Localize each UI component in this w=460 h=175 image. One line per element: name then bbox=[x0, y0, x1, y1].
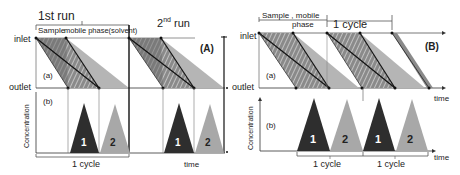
concentration-label: Concentration bbox=[23, 104, 30, 148]
mobile-phase-label: mobile phase(solvent) bbox=[64, 26, 138, 35]
svg-text:2: 2 bbox=[205, 137, 211, 148]
sample-label: Sample bbox=[38, 26, 66, 35]
outlet-label-b: outlet bbox=[232, 82, 255, 92]
sub-b-label: (b) bbox=[43, 97, 53, 106]
cycle-label: 1 cycle bbox=[72, 159, 100, 169]
inlet-label-b: inlet bbox=[240, 31, 257, 41]
phase-label: phase bbox=[292, 20, 314, 29]
cycle-bracket bbox=[36, 154, 129, 157]
svg-text:2: 2 bbox=[342, 133, 348, 145]
svg-text:1: 1 bbox=[175, 137, 181, 148]
run2-label: 2nd run bbox=[157, 16, 190, 29]
smb-diagram: 1st run Sample mobile phase(solvent) 2nd… bbox=[0, 0, 460, 175]
sub-b-label-b: (b) bbox=[266, 121, 276, 130]
cycle-top-label: 1 cycle bbox=[333, 18, 367, 30]
inlet-label: inlet bbox=[14, 34, 31, 44]
svg-text:1: 1 bbox=[310, 133, 316, 145]
sub-a-label-b: (a) bbox=[266, 71, 276, 80]
sample-mobile-label: Sample , mobile bbox=[262, 11, 320, 20]
sub-a-label: (a) bbox=[43, 71, 53, 80]
panel-b-tag: (B) bbox=[425, 41, 439, 52]
cycle2-label: 1 cycle bbox=[377, 159, 405, 169]
time-label-top: time bbox=[434, 94, 450, 103]
cycle1-label: 1 cycle bbox=[313, 159, 341, 169]
svg-text:2: 2 bbox=[110, 137, 116, 148]
svg-text:1: 1 bbox=[81, 137, 87, 148]
outlet-label: outlet bbox=[9, 82, 32, 92]
time-label: time bbox=[184, 160, 200, 169]
svg-text:1: 1 bbox=[375, 133, 381, 145]
svg-text:2: 2 bbox=[407, 133, 413, 145]
panel-a: 1st run Sample mobile phase(solvent) 2nd… bbox=[9, 9, 228, 169]
concentration-label-b: Concentration bbox=[247, 106, 254, 150]
panel-a-tag: (A) bbox=[200, 43, 214, 54]
run1-label: 1st run bbox=[38, 9, 75, 23]
panel-b: Sample , mobile phase 1 cycle inlet outl… bbox=[232, 11, 450, 169]
time-label-bottom: time bbox=[434, 153, 450, 162]
